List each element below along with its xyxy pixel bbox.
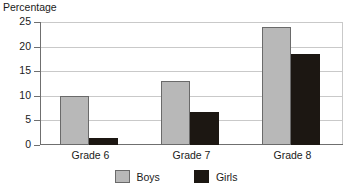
y-axis-tick-mark (34, 145, 40, 146)
chart-legend: BoysGirls (0, 170, 352, 183)
x-axis-category-label: Grade 6 (40, 149, 141, 161)
y-axis-tick-label: 0 (0, 139, 31, 150)
x-axis-category-label: Grade 7 (141, 149, 242, 161)
chart-title: Percentage (3, 1, 57, 13)
bar-girls-grade-6 (89, 138, 118, 145)
bar-chart: Percentage 0510152025 Grade 6Grade 7Grad… (0, 0, 352, 196)
x-axis-category-label: Grade 8 (242, 149, 343, 161)
legend-label: Girls (216, 171, 238, 183)
legend-swatch-boys (115, 170, 130, 183)
legend-swatch-girls (194, 170, 209, 183)
y-axis-tick-label: 10 (0, 90, 31, 101)
bar-boys-grade-8 (262, 27, 291, 145)
y-axis-tick-label: 15 (0, 65, 31, 76)
legend-item-girls: Girls (194, 170, 238, 183)
legend-label: Boys (137, 171, 160, 183)
bar-boys-grade-6 (60, 96, 89, 145)
bar-girls-grade-7 (190, 112, 219, 145)
y-axis-tick-label: 20 (0, 41, 31, 52)
y-axis-tick-label: 5 (0, 114, 31, 125)
legend-item-boys: Boys (115, 170, 160, 183)
bar-girls-grade-8 (291, 54, 320, 145)
y-axis-tick-label: 25 (0, 16, 31, 27)
bar-boys-grade-7 (161, 81, 190, 145)
bars-group (40, 22, 343, 145)
